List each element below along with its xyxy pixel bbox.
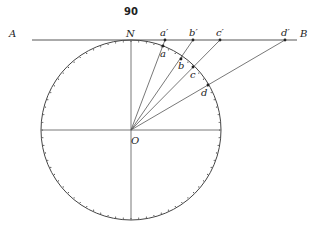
label-n: N — [125, 28, 136, 39]
point-c-prime — [219, 39, 222, 42]
label-c-prime: c′ — [216, 27, 225, 38]
label-b-line: B — [299, 28, 307, 39]
point-a — [162, 45, 165, 48]
geometry-diagram: 90 A B N O a′ b′ c′ d′ a b c d — [0, 0, 314, 225]
point-c — [192, 66, 195, 69]
label-o: O — [131, 135, 139, 146]
label-a-prime: a′ — [160, 27, 169, 38]
label-d: d — [201, 87, 207, 98]
label-b-prime: b′ — [189, 27, 198, 38]
label-c: c — [190, 69, 196, 80]
label-b: b — [178, 60, 184, 71]
point-d — [207, 84, 210, 87]
point-d-prime — [284, 39, 287, 42]
label-d-prime: d′ — [281, 27, 290, 38]
label-a: a — [160, 48, 166, 59]
point-b-prime — [192, 39, 195, 42]
page-number: 90 — [124, 6, 138, 17]
point-a-prime — [164, 39, 167, 42]
label-a-line: A — [8, 28, 16, 39]
